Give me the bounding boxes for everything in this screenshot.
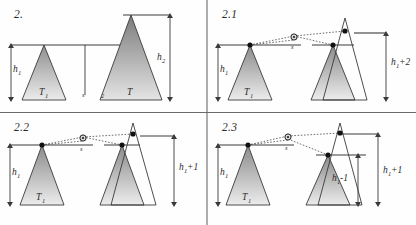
label-dim-right-tail: +1 (187, 162, 198, 172)
label-triangle-T1-sub: 1 (250, 92, 253, 99)
dashed-line-apex-to-s (250, 36, 294, 45)
triangle-shifted-filled (100, 145, 144, 205)
marker-apex-upper (130, 131, 135, 136)
label-h1-sub: 1 (225, 172, 228, 179)
arrow-down-outer (375, 202, 381, 207)
dashed-line-s-to-upper (288, 133, 340, 136)
dashed-line-s-to-lower (83, 137, 122, 145)
label-site-s: s (291, 43, 294, 50)
panel-2: 2. (0, 0, 207, 112)
triangle-T1 (20, 145, 64, 205)
label-triangle-T1-sub: 1 (45, 92, 48, 99)
marker-apex-left (245, 142, 250, 147)
marker-apex-left (39, 142, 44, 147)
label-triangle-T: T (127, 87, 133, 97)
marker-apex-lower (325, 152, 330, 157)
arrow-down-h1 (7, 202, 13, 207)
arrow-down-h1 (8, 97, 14, 102)
triangle-T1 (226, 145, 270, 205)
label-dim-inner-tail: -1 (340, 173, 348, 183)
marker-apex-lower (119, 142, 124, 147)
dashed-line-apex-to-s (42, 137, 83, 145)
panel-2-2-graphic: h 1 T 1 s h 1 +1 (0, 113, 207, 225)
marker-apex-lower (330, 42, 335, 47)
arrow-down-inner (355, 202, 361, 207)
panel-2-3: 2.3 (208, 113, 416, 225)
marker-apex-upper (337, 130, 342, 135)
marker-apex-upper (342, 28, 347, 33)
arrow-down-h2 (167, 97, 173, 102)
marker-apex-left (247, 42, 252, 47)
marker-site-s-center (293, 36, 295, 38)
label-dim-outer-tail: +1 (391, 165, 402, 175)
arrow-down-h1 (215, 202, 221, 207)
label-h1-sub: 1 (225, 69, 228, 76)
arrow-down-right (383, 97, 389, 102)
arrow-down-right (171, 202, 177, 207)
dashed-line-s-to-upper (83, 134, 133, 137)
figure-canvas: 2. (0, 0, 416, 225)
panel-2-graphic: h 1 h 2 T 1 T s 2 (0, 0, 207, 112)
panel-2-1: 2.1 (208, 0, 416, 112)
label-h1-sub: 1 (17, 172, 20, 179)
label-triangle-T1-sub: 1 (42, 197, 45, 204)
label-h1-sub: 1 (18, 69, 21, 76)
dashed-line-s-to-lower (288, 139, 328, 155)
label-triangle-T1-sub: 1 (248, 197, 251, 204)
dashed-line-s-to-lower (294, 36, 333, 45)
dashed-line-apex-to-s (248, 136, 288, 145)
label-h2-sub: 2 (162, 57, 166, 64)
marker-site-s-center (287, 136, 289, 138)
dashed-line-apex-to-s-alt (42, 141, 83, 145)
panel-2-1-graphic: h 1 T 1 s h 1 +2 (208, 0, 416, 112)
label-site-s: s (80, 145, 83, 152)
arrow-down-h1 (215, 97, 221, 102)
marker-site-s-center (82, 137, 84, 139)
triangle-shifted-filled (311, 45, 355, 100)
dashed-line-s-to-upper (294, 31, 345, 36)
panel-2-2: 2.2 (0, 113, 207, 225)
panel-2-3-graphic: h 1 T 1 s h 1 -1 h 1 +1 (208, 113, 416, 225)
label-dim-right-tail: +2 (399, 57, 410, 67)
